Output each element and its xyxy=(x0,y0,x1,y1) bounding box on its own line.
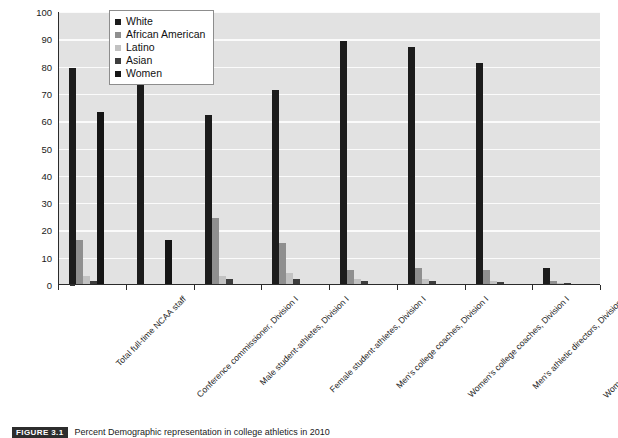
y-tick-label: 0 xyxy=(18,281,52,290)
bar xyxy=(483,270,490,284)
x-tick-mark xyxy=(600,285,601,290)
bar-group xyxy=(272,12,307,284)
y-tick-label: 90 xyxy=(18,35,52,44)
bar xyxy=(83,276,90,284)
x-axis-labels: Total full-time NCAA staffConference com… xyxy=(0,292,618,404)
bar xyxy=(286,273,293,284)
bar-group xyxy=(69,12,104,284)
x-tick-label: Conference commissioner, Division I xyxy=(194,294,299,399)
bar xyxy=(76,240,83,284)
legend-item: Asian xyxy=(115,54,205,67)
x-axis-ticks xyxy=(58,285,600,291)
x-tick-mark xyxy=(329,285,330,290)
bar xyxy=(69,68,76,284)
bar xyxy=(279,243,286,284)
y-tick-label: 70 xyxy=(18,89,52,98)
bar xyxy=(543,268,550,284)
x-tick-label: Men's athletic directors, Division I xyxy=(530,294,618,391)
y-tick-label: 10 xyxy=(18,253,52,262)
bar xyxy=(497,282,504,284)
bar xyxy=(205,115,212,284)
x-tick-label: Male student-athletes, Division I xyxy=(257,294,350,387)
bar-group xyxy=(476,12,511,284)
bar xyxy=(550,281,557,284)
bar xyxy=(272,90,279,284)
bar-group xyxy=(340,12,375,284)
legend-item: Latino xyxy=(115,41,205,54)
bar xyxy=(347,270,354,284)
bar xyxy=(219,276,226,284)
legend-label: White xyxy=(126,15,153,28)
y-tick-label: 60 xyxy=(18,117,52,126)
legend-swatch-icon xyxy=(115,32,121,38)
y-tick-label: 40 xyxy=(18,171,52,180)
chart-legend: WhiteAfrican AmericanLatinoAsianWomen xyxy=(109,10,214,85)
y-axis-ticks: 1009080706050403020100 xyxy=(18,12,52,285)
legend-swatch-icon xyxy=(115,71,121,77)
legend-swatch-icon xyxy=(115,58,121,64)
bar xyxy=(90,281,97,284)
legend-item: White xyxy=(115,15,205,28)
legend-label: Latino xyxy=(126,41,155,54)
bar xyxy=(340,41,347,284)
legend-item: African American xyxy=(115,28,205,41)
x-tick-mark xyxy=(261,285,262,290)
bar xyxy=(422,279,429,284)
bar xyxy=(490,281,497,284)
x-tick-mark xyxy=(194,285,195,290)
bar-group xyxy=(408,12,443,284)
bar xyxy=(226,279,233,284)
bar xyxy=(165,240,172,284)
bar xyxy=(212,218,219,284)
bar xyxy=(354,279,361,284)
legend-swatch-icon xyxy=(115,45,121,51)
x-tick-mark xyxy=(465,285,466,290)
bar xyxy=(557,283,564,284)
y-tick-label: 20 xyxy=(18,226,52,235)
legend-swatch-icon xyxy=(115,19,121,25)
bar xyxy=(293,279,300,284)
x-tick-mark xyxy=(58,285,59,290)
figure-caption: FIGURE 3.1 Percent Demographic represent… xyxy=(12,427,612,438)
bar-group xyxy=(543,12,578,284)
legend-label: Asian xyxy=(126,54,152,67)
figure-caption-text: Percent Demographic representation in co… xyxy=(75,427,330,438)
bar xyxy=(564,283,571,284)
x-tick-mark xyxy=(126,285,127,290)
y-tick-label: 80 xyxy=(18,62,52,71)
bar xyxy=(361,281,368,284)
bar xyxy=(408,47,415,285)
x-tick-mark xyxy=(397,285,398,290)
x-tick-label: Total full-time NCAA staff xyxy=(114,294,188,368)
legend-item: Women xyxy=(115,67,205,80)
legend-label: African American xyxy=(126,28,205,41)
bar xyxy=(429,281,436,284)
bar xyxy=(97,112,104,284)
chart-figure: Percent participation 100908070605040302… xyxy=(0,0,618,438)
y-tick-label: 30 xyxy=(18,199,52,208)
y-tick-label: 50 xyxy=(18,144,52,153)
legend-label: Women xyxy=(126,67,162,80)
y-tick-label: 100 xyxy=(18,8,52,17)
bar xyxy=(415,268,422,284)
bar xyxy=(476,63,483,284)
figure-caption-badge: FIGURE 3.1 xyxy=(12,427,68,438)
x-tick-mark xyxy=(532,285,533,290)
